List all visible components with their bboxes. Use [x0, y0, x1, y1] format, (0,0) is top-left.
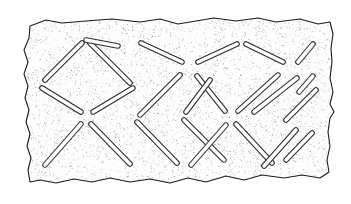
artifact-line-drawing	[0, 0, 351, 204]
figure-root	[0, 0, 351, 204]
